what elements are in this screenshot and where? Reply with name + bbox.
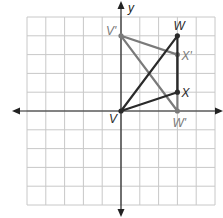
y-axis-up-arrow-icon [118,1,125,9]
coordinate-plane: y VWXV'W'X' [0,0,223,218]
y-axis-down-arrow-icon [118,209,125,217]
vertex-w [175,33,180,38]
label-v: V [109,112,118,126]
vertex-w-prime [175,108,180,113]
label-v-prime: V' [106,24,117,38]
label-w-prime: W' [172,116,186,130]
x-axis-left-arrow-icon [12,108,20,115]
label-w: W [173,19,186,33]
y-axis-label: y [127,1,135,15]
label-x-prime: X' [180,49,192,63]
vertex-v [118,108,123,113]
label-x: X [180,86,190,100]
axes: y [12,1,223,217]
x-axis-right-arrow-icon [215,108,223,115]
vertex-x [175,90,180,95]
vertex-v-prime [118,33,123,38]
